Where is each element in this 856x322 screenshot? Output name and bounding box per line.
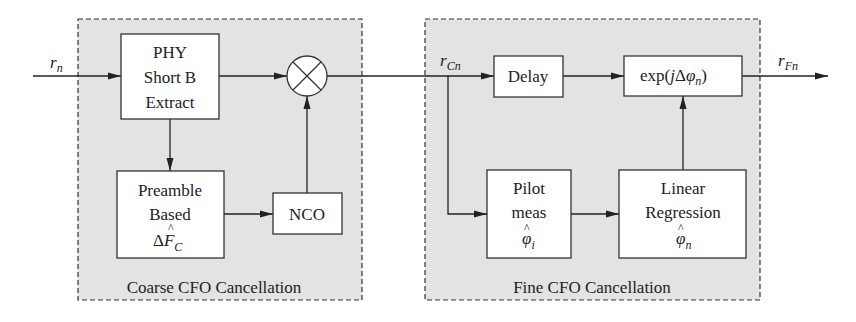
nco-label: NCO bbox=[289, 205, 325, 224]
nco-block: NCO bbox=[273, 193, 342, 234]
phy-line-1: PHY bbox=[153, 43, 187, 62]
pilot-line-2: meas bbox=[512, 203, 547, 222]
linreg-line-2: Regression bbox=[645, 203, 721, 222]
linear-regression-block: Linear Regression φn ^ bbox=[619, 170, 746, 258]
delay-block: Delay bbox=[494, 56, 563, 97]
preamble-based-block: Preamble Based ΔFC ^ bbox=[117, 171, 224, 258]
delay-label: Delay bbox=[508, 67, 549, 86]
phase-rotation-block: exp(jΔφn) bbox=[624, 56, 742, 96]
hat-mark: ^ bbox=[678, 221, 684, 235]
linreg-line-1: Linear bbox=[661, 179, 706, 198]
output-signal-label: rFn bbox=[778, 51, 798, 73]
hat-mark: ^ bbox=[168, 221, 174, 235]
phy-line-3: Extract bbox=[145, 93, 194, 112]
phy-line-2: Short B bbox=[144, 68, 196, 87]
pilot-meas-block: Pilot meas φi ^ bbox=[487, 170, 571, 258]
cfo-block-diagram: Coarse CFO Cancellation Fine CFO Cancell… bbox=[0, 0, 856, 322]
coarse-region-label: Coarse CFO Cancellation bbox=[127, 278, 302, 297]
input-signal-label: rn bbox=[50, 53, 63, 75]
fine-region-label: Fine CFO Cancellation bbox=[513, 278, 671, 297]
pilot-line-1: Pilot bbox=[513, 179, 545, 198]
preamble-line-1: Preamble bbox=[138, 181, 202, 200]
hat-mark: ^ bbox=[524, 221, 530, 235]
multiplier-block bbox=[287, 56, 327, 96]
phy-short-b-extract-block: PHY Short B Extract bbox=[121, 34, 219, 119]
